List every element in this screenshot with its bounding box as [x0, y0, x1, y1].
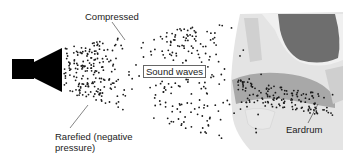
eardrum-label: Eardrum: [286, 124, 322, 135]
compressed-leader-line: [112, 22, 125, 40]
rarefied-label-line1: Rarefied (negative: [55, 131, 133, 142]
sound-waves-label: Sound waves: [143, 65, 206, 78]
rarefied-leader-line: [70, 105, 88, 128]
rarefied-label-line2: pressure): [55, 142, 95, 153]
compressed-label: Compressed: [85, 11, 139, 22]
sound-wave-diagram: Compressed Sound waves Rarefied (negativ…: [0, 0, 343, 155]
speaker-icon: [12, 48, 62, 92]
